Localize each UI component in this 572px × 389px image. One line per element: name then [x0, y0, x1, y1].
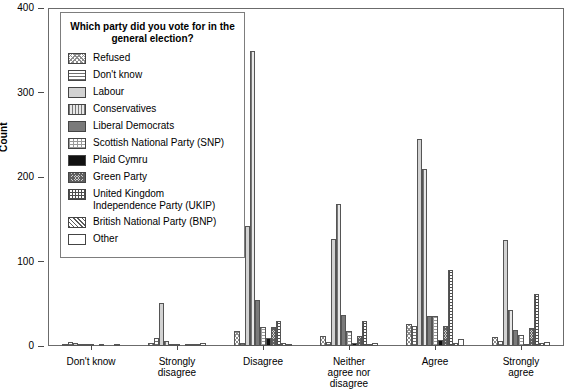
- bar: [544, 342, 549, 346]
- x-tick-label: Strongly disagree: [132, 356, 222, 378]
- legend-items: RefusedDon't knowLabourConservativesLibe…: [68, 52, 237, 245]
- bar: [448, 270, 453, 346]
- legend-item: Liberal Democrats: [68, 120, 237, 132]
- legend-item: Plaid Cymru: [68, 154, 237, 166]
- y-tick-mark: [38, 346, 44, 347]
- legend-item-label: United Kingdom Independence Party (UKIP): [93, 188, 215, 211]
- legend-swatch-icon: [68, 189, 86, 200]
- legend-item-label: Plaid Cymru: [93, 154, 147, 166]
- legend-item: Other: [68, 233, 237, 245]
- y-tick-label: 0: [0, 341, 34, 351]
- legend-swatch-icon: [68, 87, 86, 98]
- legend-item-label: Scottish National Party (SNP): [93, 137, 224, 149]
- y-tick-label: 100: [0, 257, 34, 267]
- legend-title: Which party did you vote for in the gene…: [68, 21, 237, 45]
- bar: [534, 294, 539, 346]
- y-tick-mark: [38, 177, 44, 178]
- x-tick-mark: [177, 346, 178, 350]
- x-tick-label: Disagree: [218, 356, 308, 367]
- legend-swatch-icon: [68, 234, 86, 245]
- legend-item-label: Refused: [93, 52, 130, 64]
- legend-swatch-icon: [68, 172, 86, 183]
- x-tick-mark: [263, 346, 264, 350]
- legend-item: Green Party: [68, 171, 237, 183]
- x-tick-label: Strongly agree: [476, 356, 566, 378]
- legend: Which party did you vote for in the gene…: [60, 12, 245, 258]
- legend-item-label: British National Party (BNP): [93, 216, 216, 228]
- y-tick-label: 200: [0, 172, 34, 182]
- y-tick-label: 300: [0, 88, 34, 98]
- legend-item-label: Other: [93, 233, 118, 245]
- x-tick-label: Don't know: [46, 356, 136, 367]
- x-axis: Don't knowStrongly disagreeDisagreeNeith…: [48, 350, 564, 383]
- y-tick: 400: [0, 3, 48, 13]
- legend-item-label: Liberal Democrats: [93, 120, 174, 132]
- x-tick-mark: [91, 346, 92, 350]
- legend-swatch-icon: [68, 53, 86, 64]
- x-tick-mark: [349, 346, 350, 350]
- x-tick-label: Neither agree nor disagree: [304, 356, 394, 389]
- legend-swatch-icon: [68, 138, 86, 149]
- y-tick: 100: [0, 257, 48, 267]
- legend-item-label: Green Party: [93, 171, 147, 183]
- bar: [159, 303, 164, 346]
- bar: [286, 344, 291, 346]
- legend-item-label: Don't know: [93, 69, 142, 81]
- legend-swatch-icon: [68, 70, 86, 81]
- legend-item: Labour: [68, 86, 237, 98]
- legend-item: United Kingdom Independence Party (UKIP): [68, 188, 237, 211]
- y-tick: 0: [0, 341, 48, 351]
- bar: [200, 343, 205, 346]
- x-tick-mark: [521, 346, 522, 350]
- x-tick-mark: [435, 346, 436, 350]
- y-tick: 200: [0, 172, 48, 182]
- y-tick: 300: [0, 88, 48, 98]
- bar: [362, 321, 367, 346]
- bar: [372, 343, 377, 346]
- y-axis-label: Count: [0, 122, 9, 152]
- bar: [99, 344, 104, 346]
- legend-swatch-icon: [68, 217, 86, 228]
- legend-swatch-icon: [68, 121, 86, 132]
- y-tick-mark: [38, 8, 44, 9]
- bar: [276, 321, 281, 346]
- legend-item: Conservatives: [68, 103, 237, 115]
- y-tick-mark: [38, 92, 44, 93]
- legend-swatch-icon: [68, 155, 86, 166]
- legend-item: British National Party (BNP): [68, 216, 237, 228]
- legend-item: Refused: [68, 52, 237, 64]
- legend-item-label: Conservatives: [93, 103, 156, 115]
- y-axis: 0100200300400: [0, 0, 48, 383]
- x-tick-label: Agree: [390, 356, 480, 367]
- legend-item: Don't know: [68, 69, 237, 81]
- y-tick-label: 400: [0, 3, 34, 13]
- legend-item-label: Labour: [93, 86, 124, 98]
- bar: [114, 344, 119, 346]
- y-tick-mark: [38, 261, 44, 262]
- legend-swatch-icon: [68, 104, 86, 115]
- bar: [458, 339, 463, 346]
- legend-item: Scottish National Party (SNP): [68, 137, 237, 149]
